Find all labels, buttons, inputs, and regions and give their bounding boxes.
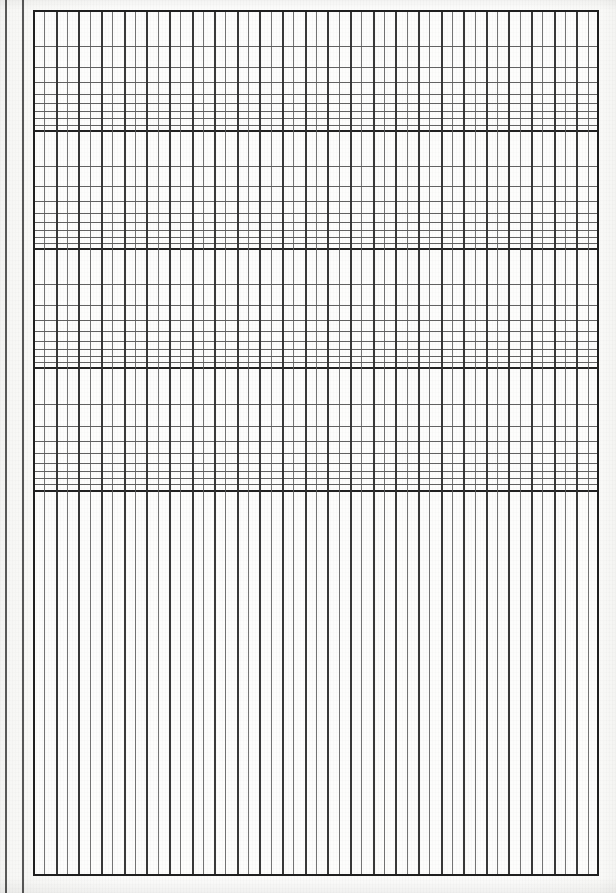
outer-margin-rule — [5, 0, 7, 893]
vertical-rule-minor — [316, 10, 317, 876]
vertical-rule-major — [395, 10, 397, 876]
vertical-rule-major — [169, 10, 171, 876]
vertical-rule-major — [350, 10, 352, 876]
vertical-rule-minor — [158, 10, 159, 876]
vertical-rule-major — [418, 10, 420, 876]
vertical-rule-minor — [90, 10, 91, 876]
vertical-rule-minor — [452, 10, 453, 876]
vertical-rule-minor — [67, 10, 68, 876]
vertical-rule-major — [441, 10, 443, 876]
vertical-rule-major — [305, 10, 307, 876]
vertical-rule-minor — [339, 10, 340, 876]
vertical-rule-right-edge — [597, 10, 599, 876]
vertical-rule-minor — [475, 10, 476, 876]
vertical-rule-major — [33, 10, 35, 876]
vertical-rule-minor — [225, 10, 226, 876]
vertical-rule-major — [124, 10, 126, 876]
vertical-rule-major — [576, 10, 578, 876]
vertical-rule-major — [214, 10, 216, 876]
vertical-rule-major — [56, 10, 58, 876]
vertical-rule-minor — [293, 10, 294, 876]
vertical-rule-minor — [429, 10, 430, 876]
vertical-rule-minor — [497, 10, 498, 876]
graph-paper-page: Semi-logarithmic graph paper sheet — [0, 0, 616, 893]
vertical-rule-minor — [542, 10, 543, 876]
vertical-rule-major — [146, 10, 148, 876]
semi-log-grid — [33, 10, 599, 876]
vertical-rule-minor — [520, 10, 521, 876]
vertical-rule-minor — [384, 10, 385, 876]
inner-margin-rule — [22, 0, 24, 893]
vertical-rule-major — [282, 10, 284, 876]
vertical-rule-major — [78, 10, 80, 876]
vertical-rule-minor — [407, 10, 408, 876]
vertical-rule-minor — [135, 10, 136, 876]
vertical-rule-minor — [361, 10, 362, 876]
vertical-rule-minor — [44, 10, 45, 876]
vertical-rule-major — [373, 10, 375, 876]
vertical-rule-minor — [248, 10, 249, 876]
vertical-rule-major — [192, 10, 194, 876]
vertical-rule-major — [531, 10, 533, 876]
vertical-rule-minor — [203, 10, 204, 876]
vertical-rule-major — [508, 10, 510, 876]
vertical-rule-major — [259, 10, 261, 876]
vertical-rule-minor — [588, 10, 589, 876]
vertical-rule-major — [237, 10, 239, 876]
vertical-rule-minor — [565, 10, 566, 876]
vertical-rule-major — [327, 10, 329, 876]
vertical-rule-minor — [271, 10, 272, 876]
vertical-rule-major — [463, 10, 465, 876]
vertical-rule-major — [486, 10, 488, 876]
vertical-rule-minor — [180, 10, 181, 876]
vertical-rule-major — [554, 10, 556, 876]
vertical-rule-major — [101, 10, 103, 876]
vertical-rule-minor — [112, 10, 113, 876]
